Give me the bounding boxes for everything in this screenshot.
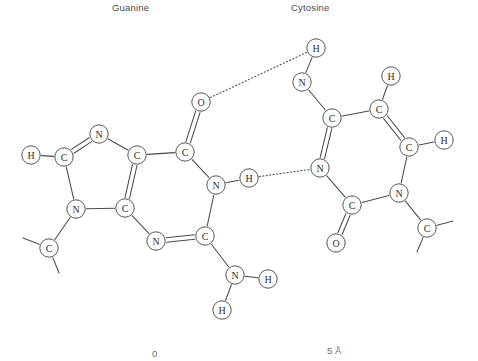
atom-symbol: C — [329, 113, 336, 124]
bond-g_c6-g_o6 — [186, 111, 196, 141]
atom-symbol: N — [212, 180, 219, 191]
atom-symbol: C — [182, 147, 189, 158]
bond-c_c4-c_c5 — [342, 111, 369, 116]
atom-o-g_o6: O — [192, 93, 210, 111]
atom-h-g_h_n2a: H — [259, 270, 277, 288]
bond-g_c8-g_n7 — [71, 138, 89, 150]
atom-h-c_h_c5: H — [382, 67, 400, 85]
bond-g_c6-g_n1 — [192, 160, 209, 178]
bond-c_c2-c_n3 — [327, 176, 345, 197]
figure-canvas: Guanine Cytosine HCNCCNCCONHCNNHHNHCCHCH… — [0, 0, 478, 361]
bond-g_n2-g_h_n2b — [226, 285, 232, 301]
sugar-stub-2 — [437, 221, 453, 225]
atom-symbol: N — [231, 270, 238, 281]
bond-c_n4-c_c4 — [309, 90, 326, 110]
atom-symbol: N — [298, 77, 305, 88]
bond-layer — [41, 58, 433, 301]
atom-symbol: H — [27, 150, 34, 161]
atom-symbol: N — [152, 236, 159, 247]
atom-symbol: H — [387, 71, 394, 82]
sugar-stub-1 — [53, 258, 59, 273]
atom-symbol: C — [349, 200, 356, 211]
atom-n-c_n1: N — [390, 184, 408, 202]
atom-symbol: C — [122, 203, 129, 214]
bond-g_n9-g_c8 — [66, 167, 73, 199]
atom-c-g_c4: C — [116, 199, 134, 217]
bond-g_n1-g_h_n1 — [226, 180, 239, 183]
atom-symbol: H — [245, 173, 252, 184]
atom-h-g_h_n1: H — [240, 169, 258, 187]
atom-symbol: N — [72, 204, 79, 215]
atom-c-g_c2: C — [196, 227, 214, 245]
bond-g_c6-g_o6 — [190, 113, 200, 143]
atom-h-c_h_n4: H — [307, 39, 325, 57]
atom-symbol: H — [218, 305, 225, 316]
bond-c_c6-c_h_c6 — [419, 142, 434, 145]
atom-layer: HCNCCNCCONHCNNHHNHCCHCHNNCOC — [22, 39, 453, 319]
atom-c-c_c4: C — [323, 109, 341, 127]
atom-n-g_n7: N — [90, 125, 108, 143]
atom-n-g_n2: N — [226, 266, 244, 284]
bond-g_n2-g_h_n2a — [245, 276, 257, 277]
bond-g_c8-g_n7 — [74, 142, 92, 154]
atom-c-g_c8: C — [55, 148, 73, 166]
atom-symbol: O — [197, 97, 204, 108]
atom-symbol: H — [264, 274, 271, 285]
atom-h-g_h_c8: H — [22, 146, 40, 164]
atom-c-c_c5: C — [370, 100, 388, 118]
scale-start-label: 0 — [152, 348, 157, 359]
atom-n-g_n3: N — [147, 232, 165, 250]
bond-g_c2-g_n3 — [166, 235, 194, 238]
bond-g_n1-g_c2 — [207, 195, 214, 226]
hydrogen-bond-g_h_n1-c_n3 — [259, 169, 309, 176]
bond-g_n3-g_c4 — [132, 216, 149, 234]
atom-c-g_c1p: C — [40, 239, 58, 257]
atom-symbol: C — [61, 152, 68, 163]
atom-symbol: C — [134, 150, 141, 161]
atom-symbol: H — [440, 135, 447, 146]
sugar-stub-3 — [417, 238, 423, 252]
atom-symbol: C — [202, 231, 209, 242]
molecule-structure: HCNCCNCCONHCNNHHNHCCHCHNNCOC — [0, 0, 478, 361]
scale-end-label: 5 Å — [327, 345, 341, 356]
bond-g_h_c8-g_c8 — [41, 156, 53, 157]
atom-c-c_c1p: C — [418, 219, 436, 237]
atom-n-g_n9: N — [67, 200, 85, 218]
atom-symbol: C — [46, 243, 53, 254]
atom-n-g_n1: N — [207, 176, 225, 194]
atom-symbol: N — [316, 163, 323, 174]
bond-c_n1-c_c2 — [362, 196, 389, 203]
atom-h-g_h_n2b: H — [213, 301, 231, 319]
bond-g_c2-g_n3 — [167, 239, 195, 242]
atom-symbol: N — [95, 129, 102, 140]
atom-c-g_c5: C — [128, 146, 146, 164]
hydrogen-bond-layer — [210, 52, 309, 176]
atom-symbol: O — [332, 238, 339, 249]
bond-g_c5-g_c6 — [147, 153, 174, 155]
atom-c-c_c2: C — [343, 196, 361, 214]
atom-n-c_n4: N — [293, 73, 311, 91]
bond-c_c6-c_n1 — [401, 157, 407, 183]
bond-c_c5-c_h_c5 — [383, 86, 388, 99]
atom-c-c_c6: C — [400, 138, 418, 156]
bond-g_n9-g_c1p — [55, 218, 70, 240]
bond-c_n1-c_c1p — [405, 201, 420, 220]
atom-symbol: C — [376, 104, 383, 115]
bond-g_c2-g_n2 — [211, 244, 228, 267]
atom-o-c_o2: O — [327, 234, 345, 252]
bond-g_c4-g_n9 — [86, 208, 114, 209]
sugar-stub-0 — [23, 238, 39, 244]
hydrogen-bond-g_o6-c_h_n4 — [210, 52, 306, 97]
atom-symbol: C — [424, 223, 431, 234]
bond-c_n4-c_h_n4 — [306, 58, 312, 73]
atom-symbol: N — [395, 188, 402, 199]
atom-symbol: C — [406, 142, 413, 153]
sugar-stub-layer — [23, 221, 453, 273]
atom-h-c_h_c6: H — [435, 131, 453, 149]
atom-c-g_c6: C — [176, 143, 194, 161]
atom-symbol: H — [312, 43, 319, 54]
bond-g_n7-g_c5 — [108, 139, 128, 150]
atom-n-c_n3: N — [311, 159, 329, 177]
